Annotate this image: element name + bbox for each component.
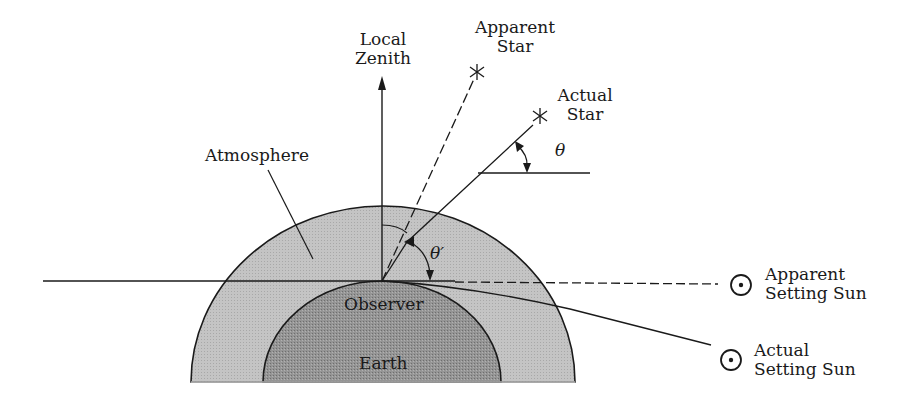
actual-sun-icon bbox=[721, 350, 741, 370]
apparent-sun-label-line1: Apparent bbox=[765, 265, 867, 284]
theta-label: θ bbox=[555, 141, 565, 160]
apparent-star-label-line2: Star bbox=[470, 37, 560, 56]
apparent-star-label: Apparent Star bbox=[470, 18, 560, 56]
apparent-sun-icon bbox=[731, 275, 751, 295]
actual-star-label: Actual Star bbox=[552, 86, 618, 124]
zenith-label-line1: Local bbox=[350, 30, 416, 49]
local-zenith-label: Local Zenith bbox=[350, 30, 416, 68]
actual-sun-label-line2: Setting Sun bbox=[754, 360, 856, 379]
apparent-star-label-line1: Apparent bbox=[470, 18, 560, 37]
apparent-star-icon bbox=[470, 64, 484, 80]
actual-star-icon bbox=[533, 108, 547, 124]
earth-label: Earth bbox=[359, 354, 407, 373]
apparent-sun-label-line2: Setting Sun bbox=[765, 284, 867, 303]
actual-setting-sun-label: Actual Setting Sun bbox=[754, 341, 856, 379]
apparent-setting-sun-label: Apparent Setting Sun bbox=[765, 265, 867, 303]
zenith-label-line2: Zenith bbox=[350, 49, 416, 68]
observer-label: Observer bbox=[344, 295, 424, 314]
theta-arrowhead-bottom-icon bbox=[523, 163, 531, 173]
actual-sun-label-line1: Actual bbox=[754, 341, 856, 360]
zenith-arrowhead-icon bbox=[378, 76, 386, 90]
actual-star-label-line1: Actual bbox=[552, 86, 618, 105]
atmosphere-label: Atmosphere bbox=[205, 146, 309, 165]
actual-star-label-line2: Star bbox=[552, 105, 618, 124]
theta-prime-label: θ′ bbox=[430, 244, 444, 263]
